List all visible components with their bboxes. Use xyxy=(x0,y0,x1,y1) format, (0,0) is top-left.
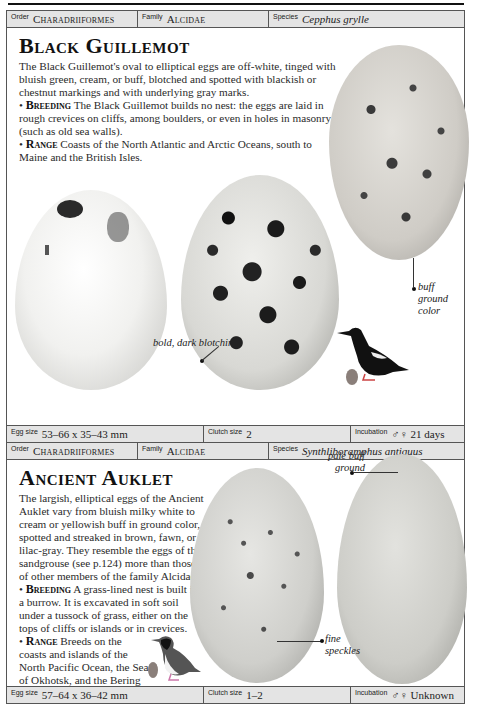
incubation-cell: Incubation ♂♀ Unknown xyxy=(351,687,464,703)
family-value: Alcidae xyxy=(167,445,206,457)
species-label: Species xyxy=(273,445,298,452)
clutch-size-cell: Clutch size 1–2 xyxy=(204,687,351,703)
egg-size-value: 57–64 x 36–42 mm xyxy=(42,689,128,701)
family-value: Alcidae xyxy=(167,13,206,25)
egg-image-buff xyxy=(329,45,469,260)
range-text: Coasts of the North Atlantic and Arctic … xyxy=(19,138,312,163)
annotation-bold-dark-blotching: bold, dark blotching xyxy=(153,337,238,349)
species-title: Ancient Auklet xyxy=(19,465,173,491)
annotation-fine-speckles: fine speckles xyxy=(325,633,370,657)
order-value: Charadriiformes xyxy=(33,13,114,25)
egg-size-value: 53–66 x 35–43 mm xyxy=(42,428,128,440)
order-label: Order xyxy=(11,13,29,20)
family-label: Family xyxy=(142,445,163,452)
range-label: Range xyxy=(26,634,58,648)
annotation-pale-buff-ground: pale buff ground xyxy=(315,450,365,474)
annotation-pointer-dot xyxy=(320,639,324,643)
clutch-size-label: Clutch size xyxy=(208,428,242,435)
annotation-leader-line xyxy=(277,641,321,642)
species-cell: Species Cepphus grylle xyxy=(269,11,464,27)
incubation-value: ♂♀ Unknown xyxy=(391,689,454,701)
clutch-size-cell: Clutch size 2 xyxy=(204,426,351,442)
species-value: Cepphus grylle xyxy=(302,13,369,25)
species-description: The Black Guillemot's oval to elliptical… xyxy=(19,60,339,164)
description-text: The largish, elliptical eggs of the Anci… xyxy=(19,492,204,583)
breeding-label: Breeding xyxy=(26,582,71,596)
page-top-rule xyxy=(8,3,464,5)
egg-image-speckled xyxy=(190,468,324,683)
egg-image-pale xyxy=(15,190,167,390)
family-cell: Family Alcidae xyxy=(138,443,269,459)
family-label: Family xyxy=(142,13,163,20)
order-label: Order xyxy=(11,445,29,452)
order-cell: Order Charadriiformes xyxy=(7,443,138,459)
family-cell: Family Alcidae xyxy=(138,11,269,27)
species-cell: Species Synthliboramphus antiquus xyxy=(269,443,464,459)
incubation-label: Incubation xyxy=(355,428,387,435)
annotation-leader-line xyxy=(353,472,398,473)
breeding-label: Breeding xyxy=(26,98,71,112)
egg-stats-bar: Egg size 57–64 x 36–42 mm Clutch size 1–… xyxy=(6,686,465,704)
incubation-label: Incubation xyxy=(355,689,387,696)
egg-stats-bar: Egg size 53–66 x 35–43 mm Clutch size 2 … xyxy=(6,425,465,443)
annotation-leader-line xyxy=(413,258,414,288)
ancient-auklet-bird-icon xyxy=(149,634,203,684)
egg-scale-marker-icon xyxy=(148,662,158,678)
species-title: Black Guillemot xyxy=(19,33,190,59)
clutch-size-label: Clutch size xyxy=(208,689,242,696)
egg-size-cell: Egg size 57–64 x 36–42 mm xyxy=(7,687,204,703)
clutch-size-value: 2 xyxy=(246,428,252,440)
incubation-cell: Incubation ♂♀ 21 days xyxy=(351,426,464,442)
range-label: Range xyxy=(26,137,58,151)
order-cell: Order Charadriiformes xyxy=(7,11,138,27)
breeding-paragraph: • Breeding The Black Guillemot builds no… xyxy=(19,99,339,138)
species-label: Species xyxy=(273,13,298,20)
description-text: The Black Guillemot's oval to elliptical… xyxy=(19,60,339,99)
egg-size-label: Egg size xyxy=(11,428,38,435)
egg-size-label: Egg size xyxy=(11,689,38,696)
range-paragraph: • Range Coasts of the North Atlantic and… xyxy=(19,138,339,164)
egg-size-cell: Egg size 53–66 x 35–43 mm xyxy=(7,426,204,442)
incubation-value: ♂♀ 21 days xyxy=(391,428,444,440)
annotation-buff-ground-color: buff ground color xyxy=(418,281,463,317)
entry-black-guillemot: Order Charadriiformes Family Alcidae Spe… xyxy=(6,10,465,443)
egg-scale-marker-icon xyxy=(346,369,358,385)
clutch-size-value: 1–2 xyxy=(246,689,263,701)
classification-bar: Order Charadriiformes Family Alcidae Spe… xyxy=(6,10,465,28)
breeding-paragraph: • Breeding A grass-lined nest is built i… xyxy=(19,583,204,635)
order-value: Charadriiformes xyxy=(33,445,114,457)
entry-ancient-auklet: Order Charadriiformes Family Alcidae Spe… xyxy=(6,442,465,704)
